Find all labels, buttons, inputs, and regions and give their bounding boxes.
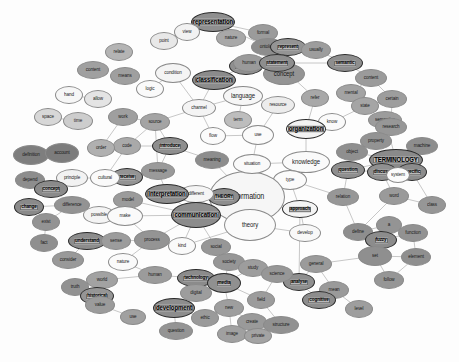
graph-node-sense[interactable]: sense bbox=[101, 232, 131, 250]
graph-node-make[interactable]: make bbox=[107, 206, 143, 226]
graph-node-label: formal bbox=[257, 30, 269, 35]
graph-node-approach[interactable]: approach bbox=[282, 200, 318, 218]
graph-node-meaning[interactable]: meaning bbox=[195, 151, 229, 169]
graph-node-label: possible bbox=[91, 212, 107, 217]
graph-node-resource[interactable]: resource bbox=[261, 96, 295, 114]
graph-node-field[interactable]: field bbox=[247, 291, 275, 309]
graph-node-label: different bbox=[188, 191, 204, 196]
graph-node-content_l[interactable]: content bbox=[77, 61, 109, 79]
graph-node-label: receive bbox=[118, 174, 135, 179]
graph-node-hand[interactable]: hand bbox=[55, 86, 83, 104]
graph-node-space[interactable]: space bbox=[34, 108, 62, 126]
graph-node-question_b[interactable]: question bbox=[159, 322, 193, 340]
graph-node-system_w[interactable]: system bbox=[386, 167, 410, 183]
graph-node-allow[interactable]: allow bbox=[84, 90, 112, 108]
graph-node-relate[interactable]: relate bbox=[105, 43, 133, 61]
graph-node-semantic[interactable]: semantic bbox=[327, 54, 363, 72]
graph-node-label: source bbox=[148, 119, 161, 124]
graph-node-element[interactable]: element bbox=[401, 248, 431, 266]
graph-node-new[interactable]: new bbox=[214, 299, 244, 317]
graph-node-cultural[interactable]: cultural bbox=[90, 169, 120, 187]
graph-node-follow[interactable]: follow bbox=[374, 271, 404, 289]
graph-node-term[interactable]: term bbox=[224, 111, 252, 129]
graph-node-private[interactable]: private bbox=[244, 328, 272, 344]
graph-node-channel[interactable]: channel bbox=[182, 99, 216, 117]
graph-node-order[interactable]: order bbox=[87, 139, 115, 157]
graph-node-develop[interactable]: develop bbox=[289, 224, 321, 242]
graph-node-class[interactable]: class bbox=[418, 196, 446, 214]
graph-node-language[interactable]: language bbox=[223, 86, 263, 106]
graph-node-label: cultural bbox=[98, 175, 112, 180]
graph-node-label: exist bbox=[42, 219, 51, 224]
graph-node-content_r[interactable]: content bbox=[355, 69, 387, 87]
graph-node-word[interactable]: word bbox=[379, 187, 409, 205]
graph-node-nature_top[interactable]: nature bbox=[216, 29, 246, 47]
graph-node-view[interactable]: view bbox=[174, 23, 200, 41]
graph-node-label: depend bbox=[23, 177, 38, 182]
graph-node-flow[interactable]: flow bbox=[200, 127, 226, 145]
graph-node-media[interactable]: media bbox=[207, 273, 241, 293]
graph-node-organization[interactable]: organization bbox=[286, 119, 326, 139]
graph-node-label: digital bbox=[190, 290, 201, 295]
graph-node-statement[interactable]: statement bbox=[259, 54, 295, 72]
graph-node-set[interactable]: set bbox=[358, 246, 392, 266]
graph-node-code[interactable]: code bbox=[113, 137, 141, 155]
graph-node-label: ethic bbox=[200, 315, 209, 320]
graph-node-label: make bbox=[120, 213, 131, 218]
graph-node-theory[interactable]: theory bbox=[224, 209, 276, 241]
graph-node-communication[interactable]: communication bbox=[171, 202, 221, 228]
graph-node-kind[interactable]: kind bbox=[168, 237, 196, 255]
graph-node-label: condition bbox=[164, 70, 182, 75]
graph-node-label: hand bbox=[64, 92, 74, 97]
graph-node-question[interactable]: question bbox=[331, 161, 365, 179]
graph-node-condition[interactable]: condition bbox=[155, 63, 191, 83]
graph-node-situation[interactable]: situation bbox=[233, 154, 271, 174]
graph-node-level[interactable]: level bbox=[345, 300, 373, 318]
graph-node-exist[interactable]: exist bbox=[32, 213, 60, 231]
graph-node-label: develop bbox=[297, 230, 312, 235]
graph-node-relation[interactable]: relation bbox=[327, 188, 359, 206]
graph-node-refer[interactable]: refer bbox=[301, 89, 329, 107]
graph-node-classification[interactable]: classification bbox=[192, 70, 236, 90]
graph-node-label: message bbox=[149, 168, 167, 173]
graph-node-time[interactable]: time bbox=[63, 112, 93, 130]
graph-node-image[interactable]: image bbox=[217, 325, 247, 343]
network-graph-figure: representationnatureformalontologyrepres… bbox=[0, 0, 459, 362]
graph-node-work[interactable]: work bbox=[108, 108, 138, 126]
graph-node-use[interactable]: use bbox=[242, 125, 274, 145]
graph-node-development[interactable]: development bbox=[153, 298, 195, 318]
graph-node-label: technology bbox=[183, 275, 209, 280]
graph-node-function[interactable]: function bbox=[398, 224, 428, 242]
graph-node-value[interactable]: value bbox=[85, 296, 115, 314]
graph-node-point[interactable]: point bbox=[150, 32, 178, 50]
graph-node-cognitive[interactable]: cognitive bbox=[302, 291, 336, 309]
graph-node-human[interactable]: human bbox=[138, 266, 172, 284]
graph-node-account[interactable]: account bbox=[45, 143, 79, 163]
graph-node-consider[interactable]: consider bbox=[52, 251, 84, 269]
graph-node-science[interactable]: science bbox=[261, 265, 293, 283]
graph-node-label: human bbox=[148, 272, 162, 277]
graph-node-message[interactable]: message bbox=[141, 162, 175, 180]
graph-node-concept_l[interactable]: concept bbox=[34, 180, 68, 198]
graph-node-source[interactable]: source bbox=[140, 113, 170, 131]
graph-node-world[interactable]: world bbox=[86, 271, 118, 289]
graph-node-label: mental bbox=[344, 90, 357, 95]
graph-node-usually[interactable]: usually bbox=[301, 41, 331, 59]
graph-node-means[interactable]: means bbox=[110, 67, 140, 85]
graph-node-fact[interactable]: fact bbox=[30, 234, 58, 252]
graph-node-label: analyse bbox=[290, 279, 308, 284]
graph-node-object[interactable]: object bbox=[336, 143, 368, 161]
graph-node-label: work bbox=[118, 114, 127, 119]
graph-node-use_b[interactable]: use bbox=[120, 309, 146, 325]
graph-node-definition[interactable]: definition bbox=[13, 145, 49, 165]
graph-node-process[interactable]: process bbox=[134, 230, 170, 250]
graph-node-logic[interactable]: logic bbox=[136, 80, 164, 98]
graph-node-interpretation[interactable]: interpretation bbox=[145, 184, 189, 204]
graph-node-introduce[interactable]: introduce bbox=[152, 137, 188, 155]
graph-node-certain[interactable]: certain bbox=[377, 90, 407, 108]
graph-node-label: refer bbox=[311, 95, 320, 100]
graph-node-general[interactable]: general bbox=[300, 255, 332, 273]
graph-node-nature[interactable]: nature bbox=[108, 253, 138, 271]
graph-node-label: logic bbox=[146, 86, 155, 91]
graph-node-label: image bbox=[226, 331, 238, 336]
